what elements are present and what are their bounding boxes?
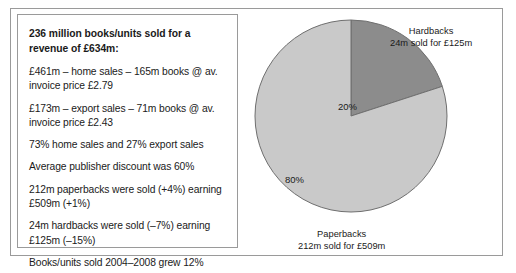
pie-slice-label-paperbacks: 80% [285, 174, 304, 185]
callout-hardbacks-title: Hardbacks [390, 25, 472, 37]
stat-line-home-sales: £461m – home sales – 165m books @ av. in… [29, 65, 227, 94]
stat-line-publisher-discount: Average publisher discount was 60% [29, 160, 227, 174]
pie-slice-label-hardbacks: 20% [338, 101, 357, 112]
callout-paperbacks: Paperbacks 212m sold for £509m [298, 228, 385, 252]
callout-paperbacks-title: Paperbacks [298, 228, 385, 240]
callout-paperbacks-detail: 212m sold for £509m [298, 240, 385, 252]
stat-line-export-sales: £173m – export sales – 71m books @ av. i… [29, 102, 227, 131]
stat-line-units-growth: Books/units sold 2004–2008 grew 12% [29, 256, 227, 270]
callout-hardbacks-detail: 24m sold for £125m [390, 37, 472, 49]
figure-frame: 236 million books/units sold for a reven… [10, 8, 503, 256]
stats-panel: 236 million books/units sold for a reven… [17, 14, 238, 248]
stat-line-sales-split: 73% home sales and 27% export sales [29, 138, 227, 152]
stat-line-paperbacks: 212m paperbacks were sold (+4%) earning … [29, 183, 227, 212]
stat-line-hardbacks: 24m hardbacks were sold (–7%) earning £1… [29, 219, 227, 248]
pie-chart: 20% 80% Hardbacks 24m sold for £125m Pap… [238, 9, 504, 255]
callout-hardbacks: Hardbacks 24m sold for £125m [390, 25, 472, 49]
panel-headline: 236 million books/units sold for a reven… [29, 27, 227, 56]
